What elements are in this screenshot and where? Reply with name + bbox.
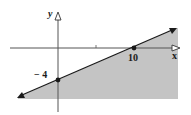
x-axis-label: x (172, 50, 177, 61)
point-y-intercept (56, 78, 61, 83)
y-axis-label: y (47, 8, 53, 19)
point-x-intercept (132, 46, 137, 51)
shaded-region (18, 28, 178, 99)
y-intercept-label: − 4 (34, 69, 47, 80)
inequality-graph: y x 10 − 4 (0, 0, 191, 115)
x-intercept-label: 10 (128, 52, 138, 63)
y-axis-arrow-icon (55, 12, 61, 20)
